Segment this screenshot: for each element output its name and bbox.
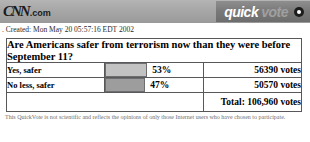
option-label-yes: Yes, safer xyxy=(7,63,105,78)
cnn-wordmark: CNN xyxy=(3,3,29,19)
site-header: CNN.com quick vote xyxy=(0,0,310,23)
option-votes-yes: 56390 votes xyxy=(203,63,301,78)
quickvote-banner: quick vote xyxy=(216,1,310,22)
poll-total-votes: Total: 106,960 votes xyxy=(203,93,301,112)
cnn-dotcom-suffix: .com xyxy=(30,8,51,18)
table-row: Yes, safer 53% 56390 votes xyxy=(7,63,302,78)
poll-results-table: Are Americans safer from terrorism now t… xyxy=(6,38,302,112)
poll-disclaimer: This QuickVote is not scientific and ref… xyxy=(0,114,310,121)
poll-total-row: Total: 106,960 votes xyxy=(7,93,302,112)
total-spacer xyxy=(7,93,204,112)
poll-results-panel: Are Americans safer from terrorism now t… xyxy=(0,38,310,112)
option-percent-yes: 53% xyxy=(152,65,171,75)
cnn-logo[interactable]: CNN.com xyxy=(3,4,51,21)
poll-question-row: Are Americans safer from terrorism now t… xyxy=(7,39,302,63)
quickvote-logo-quick: quick xyxy=(224,4,258,20)
option-bar-cell-no: 47% xyxy=(105,78,203,93)
option-label-no: No less, safer xyxy=(7,78,105,93)
option-votes-no: 50570 votes xyxy=(203,78,301,93)
result-bar-yes xyxy=(105,63,147,77)
option-percent-no: 47% xyxy=(150,80,169,90)
close-dot-icon[interactable] xyxy=(294,7,304,17)
result-bar-no xyxy=(105,78,145,92)
quickvote-logo-vote: vote xyxy=(261,4,288,20)
table-row: No less, safer 47% 50570 votes xyxy=(7,78,302,93)
created-timestamp: . Created: Mon May 20 05:57:16 EDT 2002 xyxy=(0,23,310,38)
option-bar-cell-yes: 53% xyxy=(105,63,203,78)
poll-question: Are Americans safer from terrorism now t… xyxy=(7,39,302,63)
